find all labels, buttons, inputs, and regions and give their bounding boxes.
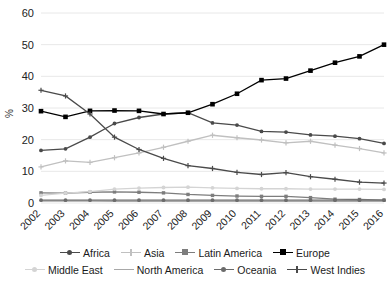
data-point-europe — [161, 112, 166, 117]
data-point-africa — [113, 122, 117, 126]
legend-label: Europe — [296, 247, 330, 259]
data-point-latin-america — [235, 194, 238, 197]
y-tick-label: 50 — [22, 39, 34, 51]
legend-marker-plus-icon — [121, 248, 141, 257]
y-tick-label: 30 — [22, 102, 34, 114]
data-point-latin-america — [162, 191, 165, 194]
x-tick-label: 2007 — [140, 207, 165, 232]
x-tick-label: 2009 — [189, 207, 214, 232]
legend-item-west-indies[interactable]: West Indies — [287, 264, 365, 276]
data-point-middle-east — [137, 186, 141, 190]
data-point-europe — [333, 60, 338, 65]
x-tick-label: 2011 — [238, 207, 263, 232]
data-point-oceania — [88, 198, 92, 202]
data-point-latin-america — [211, 194, 214, 197]
x-tick-label: 2016 — [360, 207, 385, 232]
data-point-europe — [137, 109, 142, 114]
data-point-europe — [284, 76, 289, 81]
data-point-oceania — [39, 198, 43, 202]
data-point-europe — [63, 115, 68, 120]
data-point-middle-east — [211, 186, 215, 190]
legend-marker-square-icon — [175, 248, 195, 257]
data-point-oceania — [382, 198, 386, 202]
data-point-africa — [309, 133, 313, 137]
legend-marker-dot-icon — [214, 265, 234, 274]
data-point-africa — [358, 137, 362, 141]
x-tick-label: 2010 — [213, 207, 238, 232]
data-point-africa — [260, 130, 264, 134]
data-point-middle-east — [309, 187, 313, 191]
x-tick-label: 2005 — [91, 207, 116, 232]
data-point-europe — [39, 109, 44, 114]
data-point-oceania — [309, 198, 313, 202]
data-point-oceania — [260, 198, 264, 202]
data-point-latin-america — [186, 193, 189, 196]
data-point-latin-america — [284, 195, 287, 198]
y-tick-label: 20 — [22, 134, 34, 146]
data-point-africa — [284, 130, 288, 134]
legend-label: West Indies — [310, 264, 365, 276]
x-tick-label: 2008 — [164, 207, 189, 232]
legend-label: Oceania — [237, 264, 276, 276]
y-tick-label: 10 — [22, 165, 34, 177]
data-point-europe — [357, 54, 362, 59]
legend-marker-plus-icon — [287, 265, 307, 274]
data-point-middle-east — [260, 187, 264, 191]
legend-item-asia[interactable]: Asia — [121, 247, 164, 259]
legend-item-oceania[interactable]: Oceania — [214, 264, 276, 276]
legend-item-north-america[interactable]: North America — [114, 264, 204, 276]
x-tick-label: 2002 — [17, 207, 42, 232]
data-point-oceania — [113, 198, 117, 202]
legend-item-latin-america[interactable]: Latin America — [175, 247, 262, 259]
data-point-latin-america — [260, 195, 263, 198]
data-point-middle-east — [284, 187, 288, 191]
data-point-oceania — [186, 198, 190, 202]
data-point-europe — [308, 68, 313, 73]
data-point-europe — [382, 42, 387, 47]
data-point-europe — [112, 108, 117, 113]
data-point-africa — [137, 116, 141, 120]
data-point-africa — [333, 134, 337, 138]
data-point-europe — [186, 110, 191, 115]
data-point-middle-east — [333, 187, 337, 191]
data-point-middle-east — [88, 190, 92, 194]
data-point-oceania — [64, 198, 68, 202]
data-point-middle-east — [39, 194, 43, 198]
data-point-middle-east — [382, 187, 386, 191]
legend-marker-dot-icon — [25, 265, 45, 274]
x-tick-label: 2015 — [336, 207, 361, 232]
x-tick-label: 2006 — [115, 207, 140, 232]
data-point-europe — [259, 78, 264, 83]
data-point-latin-america — [137, 191, 140, 194]
data-point-europe — [235, 91, 240, 96]
x-tick-label: 2004 — [66, 207, 91, 232]
legend-label: Latin America — [198, 247, 262, 259]
data-point-oceania — [137, 198, 141, 202]
legend-label: Africa — [83, 247, 110, 259]
legend-marker-square-icon — [273, 248, 293, 257]
legend-item-europe[interactable]: Europe — [273, 247, 330, 259]
data-point-middle-east — [235, 187, 239, 191]
legend-label: Middle East — [48, 264, 103, 276]
chart-legend: Africa Asia Latin America Europe Middle … — [0, 244, 390, 278]
line-chart: % 01020304050602002200320042005200620072… — [0, 0, 390, 286]
data-point-africa — [235, 123, 239, 127]
legend-item-middle-east[interactable]: Middle East — [25, 264, 103, 276]
data-point-oceania — [162, 198, 166, 202]
x-tick-label: 2013 — [287, 207, 312, 232]
data-point-oceania — [333, 198, 337, 202]
legend-row-1: Africa Asia Latin America Europe — [0, 244, 390, 261]
y-tick-label: 40 — [22, 70, 34, 82]
legend-item-africa[interactable]: Africa — [60, 247, 110, 259]
data-point-africa — [39, 149, 43, 153]
data-point-africa — [88, 135, 92, 139]
data-point-oceania — [284, 198, 288, 202]
x-tick-label: 2012 — [262, 207, 287, 232]
data-point-africa — [211, 121, 215, 125]
legend-label: North America — [137, 264, 204, 276]
data-point-middle-east — [113, 187, 117, 191]
data-point-africa — [64, 147, 68, 151]
data-point-middle-east — [186, 185, 190, 189]
legend-marker-dot-icon — [60, 248, 80, 257]
data-point-africa — [382, 142, 386, 146]
